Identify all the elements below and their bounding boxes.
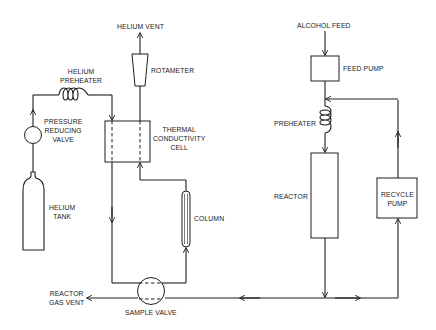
pressure-reducing-valve-label: PRESSURE REDUCING VALVE [44, 117, 82, 144]
sample-valve-label: SAMPLE VALVE [125, 308, 177, 317]
sample-valve [138, 278, 165, 305]
alcohol-feed-label: ALCOHOL FEED [297, 21, 351, 30]
helium-tank-label: HELIUM TANK [49, 203, 75, 221]
reactor-gas-vent-label: REACTOR GAS VENT [49, 289, 84, 307]
rotameter [132, 54, 148, 86]
column-label: COLUMN [194, 214, 224, 223]
feed-pump [311, 56, 339, 81]
pressure-reducing-valve [25, 127, 42, 144]
thermal-conductivity-cell [105, 121, 150, 162]
helium-preheater-coil [59, 88, 88, 100]
helium-vent-label: HELIUM VENT [117, 22, 164, 31]
reactor [311, 153, 338, 238]
preheater-coil [320, 106, 331, 133]
rotameter-label: ROTAMETER [151, 66, 194, 75]
recycle-pump-label: RECYCLE PUMP [381, 190, 414, 208]
feed-pump-label: FEED PUMP [343, 64, 384, 73]
preheater-label: PREHEATER [274, 119, 316, 128]
helium-tank [23, 172, 44, 250]
column [182, 191, 190, 247]
process-flow-diagram [0, 0, 436, 330]
thermal-conductivity-cell-label: THERMAL CONDUCTIVITY CELL [153, 125, 205, 152]
reactor-label: REACTOR [274, 192, 308, 201]
helium-preheater-label: HELIUM PREHEATER [60, 67, 102, 85]
